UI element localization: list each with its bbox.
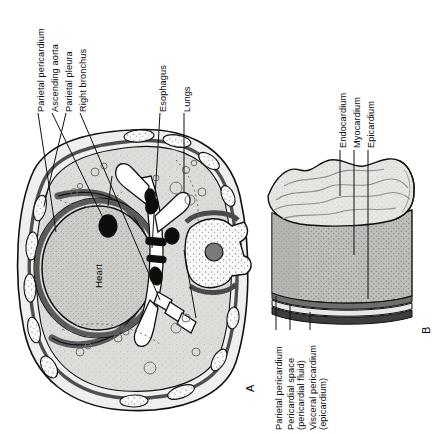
label-esophagus: Esophagus bbox=[158, 65, 168, 112]
label-heart: Heart bbox=[94, 264, 104, 288]
label-pericardial-space-sub: (pericardial fluid) bbox=[296, 360, 306, 430]
mediastinum-structures bbox=[99, 164, 196, 347]
label-right-bronchus: Right bronchus bbox=[78, 49, 88, 112]
panel-b-leader-lines-bottom bbox=[276, 296, 310, 330]
myocardium-block bbox=[272, 210, 412, 303]
label-ascending-aorta: Ascending aorta bbox=[50, 44, 60, 112]
label-parietal-pericardium-b: Parietal pericardium bbox=[274, 346, 284, 430]
ribs bbox=[24, 129, 242, 408]
label-pericardial-space: Pericardial space bbox=[286, 358, 296, 430]
label-visceral-pericardium: Visceral pericardium bbox=[308, 345, 318, 430]
endocardium-surface bbox=[268, 159, 414, 226]
panel-a-leader-lines bbox=[38, 113, 196, 318]
label-myocardium: Myocardium bbox=[352, 97, 362, 148]
label-endocardium: Endocardium bbox=[338, 93, 348, 148]
label-epicardium: Epicardium bbox=[366, 101, 376, 148]
label-parietal-pericardium: Parietal pericardium bbox=[36, 28, 46, 112]
label-parietal-pleura: Parietal pleura bbox=[64, 51, 74, 112]
label-lungs: Lungs bbox=[182, 86, 192, 112]
pericardial-layers bbox=[272, 293, 412, 324]
panel-marker-b: B bbox=[420, 327, 432, 334]
anatomy-figure: Parietal pericardium Ascending aorta Par… bbox=[0, 0, 441, 434]
vertebra bbox=[185, 213, 251, 293]
panel-marker-a: A bbox=[244, 385, 256, 392]
thorax-body-wall bbox=[18, 130, 248, 411]
label-visceral-pericardium-sub: (epicardium) bbox=[318, 378, 328, 430]
panel-b-leader-lines-top bbox=[340, 150, 368, 299]
lung-vessels bbox=[60, 160, 206, 374]
